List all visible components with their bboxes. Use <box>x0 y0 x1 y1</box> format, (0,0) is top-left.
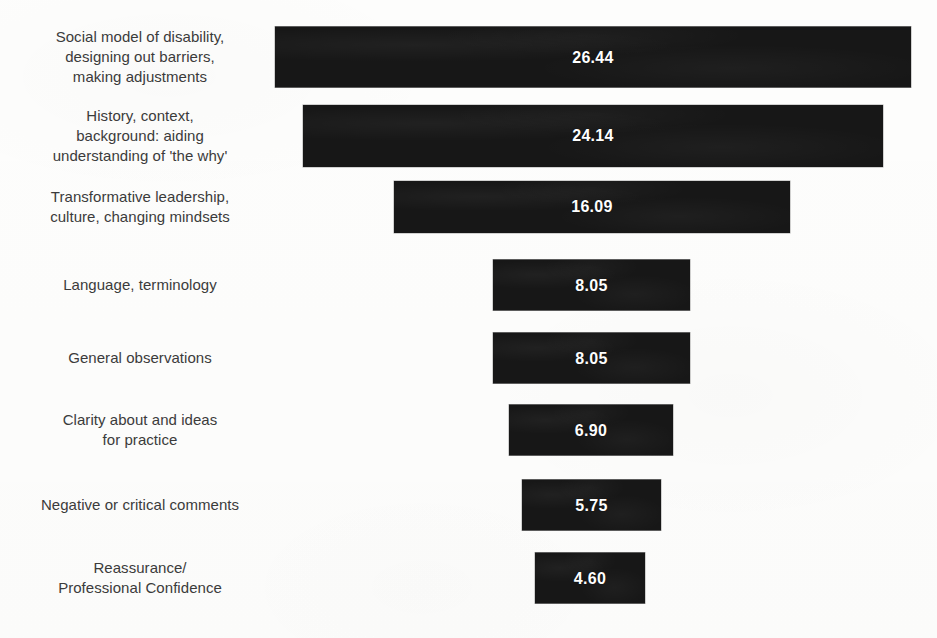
bar[interactable]: 26.44 <box>275 27 911 88</box>
bar-value-label: 5.75 <box>575 496 607 514</box>
category-label: Clarity about and ideas for practice <box>8 410 272 450</box>
category-label: Negative or critical comments <box>8 495 272 515</box>
bar[interactable]: 8.05 <box>493 260 690 311</box>
paper-grain-overlay <box>0 0 937 638</box>
bar-value-label: 8.05 <box>575 349 607 367</box>
category-label: Reassurance/ Professional Confidence <box>8 558 272 598</box>
bar-value-label: 4.60 <box>574 569 606 587</box>
category-label: Transformative leadership, culture, chan… <box>8 187 272 227</box>
bar[interactable]: 5.75 <box>522 480 661 531</box>
category-label: General observations <box>8 348 272 368</box>
category-label: History, context, background: aiding und… <box>8 106 272 166</box>
chart-canvas: Social model of disability, designing ou… <box>0 0 937 638</box>
bar-value-label: 26.44 <box>572 48 614 66</box>
bar-value-label: 16.09 <box>571 198 613 216</box>
bar[interactable]: 8.05 <box>493 333 690 384</box>
category-label: Social model of disability, designing ou… <box>8 27 272 87</box>
bar-value-label: 8.05 <box>575 276 607 294</box>
category-label: Language, terminology <box>8 275 272 295</box>
bar-value-label: 24.14 <box>572 127 614 145</box>
bar-value-label: 6.90 <box>575 421 607 439</box>
bar[interactable]: 6.90 <box>509 405 673 456</box>
bar[interactable]: 24.14 <box>303 105 883 167</box>
bar[interactable]: 4.60 <box>535 553 645 604</box>
bar[interactable]: 16.09 <box>394 181 790 233</box>
